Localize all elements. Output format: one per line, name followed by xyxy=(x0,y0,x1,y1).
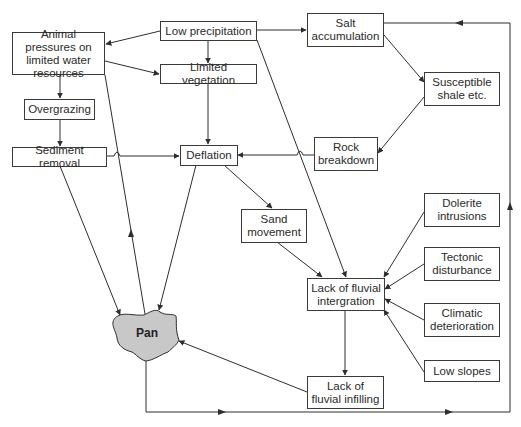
loop-arrowhead-2 xyxy=(445,409,453,415)
node-animal-pressures: Animal pressures on limited water resour… xyxy=(12,32,105,75)
edge-tectonic-integration xyxy=(385,264,424,289)
node-low-precipitation: Low precipitation xyxy=(160,21,257,41)
node-sediment-removal: Sediment removal xyxy=(12,147,107,167)
node-rock-breakdown: Rock breakdown xyxy=(314,137,378,171)
edge-climatic-integration xyxy=(385,299,424,320)
node-pan-label: Pan xyxy=(136,326,158,340)
edge-deflation-pan xyxy=(159,165,196,310)
edge-sediment-pan xyxy=(60,166,120,315)
edge-pan-animal-arrowhead xyxy=(128,229,134,237)
edge-sand-integration xyxy=(277,242,322,277)
edge-rock-deflation xyxy=(238,151,314,155)
edge-pan-animal xyxy=(105,75,145,314)
node-overgrazing: Overgrazing xyxy=(24,99,95,120)
node-lack-fluvial-infilling: Lack of fluvial infilling xyxy=(307,376,384,409)
node-limited-vegetation: Limited vegetation xyxy=(160,64,257,84)
node-salt-accumulation: Salt accumulation xyxy=(307,13,384,47)
edge-shale-rock xyxy=(378,97,424,153)
loop-arrowhead-1 xyxy=(218,409,226,415)
edge-infilling-pan xyxy=(179,341,307,392)
node-tectonic-disturbance: Tectonic disturbance xyxy=(424,247,500,281)
edge-animal-vegetation xyxy=(105,61,159,74)
node-lack-fluvial-integration: Lack of fluvial intergration xyxy=(307,278,385,311)
edge-deflation-sand xyxy=(224,165,272,208)
loop-arrowhead-4 xyxy=(455,20,463,26)
node-climatic-deterioration: Climatic deterioration xyxy=(424,303,500,337)
edge-salt-shale xyxy=(384,35,424,82)
edge-lowslopes-integration xyxy=(384,310,424,372)
node-deflation: Deflation xyxy=(180,145,238,166)
loop-arrowhead-3 xyxy=(507,202,513,210)
node-low-slopes: Low slopes xyxy=(424,360,500,382)
node-susceptible-shale: Susceptible shale etc. xyxy=(424,72,500,106)
node-sand-movement: Sand movement xyxy=(241,209,307,243)
edge-dolerite-integration xyxy=(384,212,424,277)
edge-lowprecip-animal xyxy=(106,31,160,44)
node-dolerite-intrusions: Dolerite intrusions xyxy=(424,193,500,227)
